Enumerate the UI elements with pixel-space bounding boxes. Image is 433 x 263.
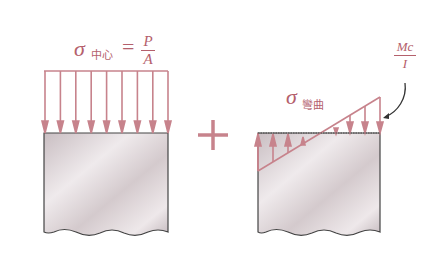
left-block xyxy=(44,133,168,235)
equals-sign: = xyxy=(122,34,134,60)
sigma-symbol: σ xyxy=(286,84,297,110)
leader-arrow xyxy=(383,83,405,119)
uniform-stress-arrows xyxy=(42,71,171,133)
numerator: P xyxy=(141,34,155,49)
subscript-bending: 彎曲 xyxy=(302,96,324,112)
sigma-symbol: σ xyxy=(74,36,85,62)
subscript-center: 中心 xyxy=(91,46,113,62)
axial-fraction: P A xyxy=(141,34,155,67)
down-arrow-icon xyxy=(42,71,171,133)
right-block xyxy=(258,133,380,235)
denominator: A xyxy=(141,52,155,67)
numerator: Mc xyxy=(394,40,416,54)
max-bending-fraction: Mc I xyxy=(394,40,416,71)
plus-icon xyxy=(198,120,228,150)
denominator: I xyxy=(394,57,416,71)
diagram-canvas xyxy=(0,0,433,263)
